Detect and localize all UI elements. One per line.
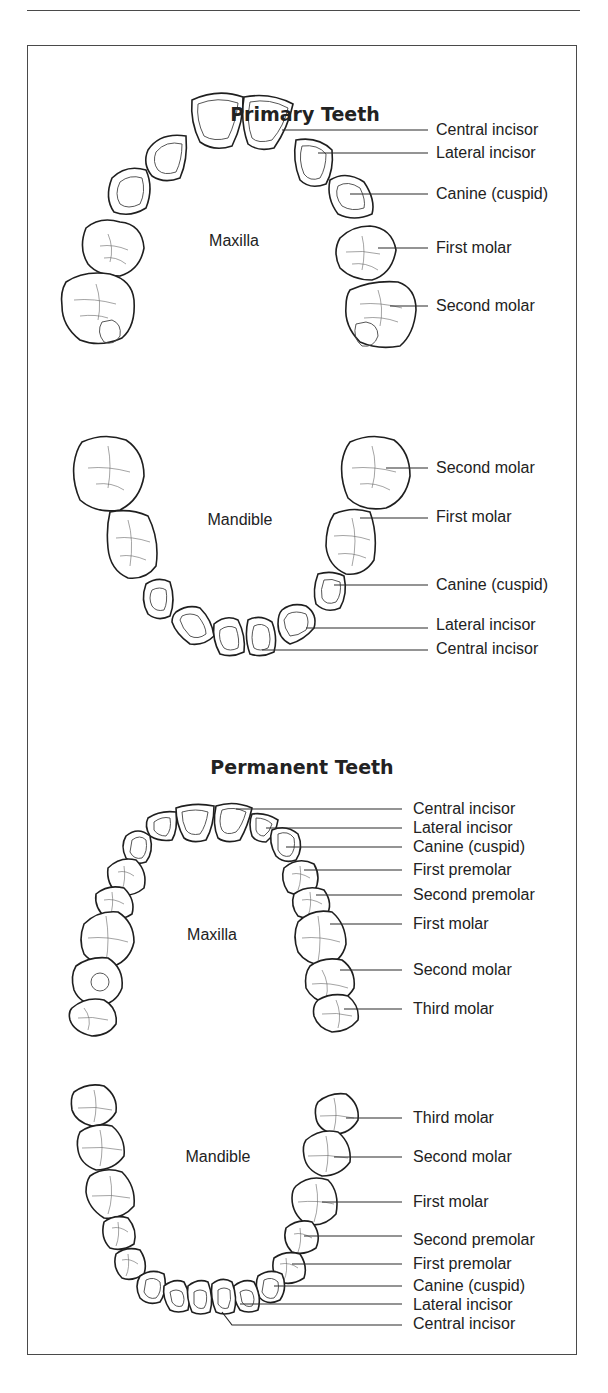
tooth-icon — [146, 812, 176, 841]
tooth-icon — [295, 911, 346, 966]
tooth-icon — [74, 436, 144, 510]
permanent-maxilla-canine-label: Canine (cuspid) — [413, 839, 525, 855]
primary-teeth-title: Primary Teeth — [230, 103, 380, 125]
permanent-mandible-central-incisor-label: Central incisor — [413, 1316, 515, 1332]
tooth-icon — [346, 282, 416, 348]
tooth-icon — [188, 1281, 212, 1314]
permanent-maxilla-first-premolar-label: First premolar — [413, 862, 512, 878]
tooth-icon — [164, 1281, 190, 1312]
primary-maxilla-central-incisor-label: Central incisor — [436, 122, 538, 138]
primary-maxilla-second-molar-label: Second molar — [436, 298, 535, 314]
tooth-icon — [326, 509, 375, 574]
dental-chart-illustration — [0, 0, 608, 1393]
tooth-icon — [256, 1271, 284, 1302]
permanent-mandible-lateral-incisor-label: Lateral incisor — [413, 1297, 513, 1313]
permanent-mandible-second-premolar-label: Second premolar — [413, 1232, 535, 1248]
permanent-mandible-label: Mandible — [186, 1148, 251, 1166]
tooth-icon — [143, 579, 173, 618]
tooth-icon — [329, 175, 373, 218]
permanent-maxilla-third-molar-label: Third molar — [413, 1001, 494, 1017]
tooth-icon — [107, 511, 157, 579]
primary-maxilla-canine-label: Canine (cuspid) — [436, 186, 548, 202]
permanent-teeth-title: Permanent Teeth — [210, 756, 393, 778]
permanent-mandible-first-molar-label: First molar — [413, 1194, 489, 1210]
permanent-mandible-second-molar-label: Second molar — [413, 1149, 512, 1165]
tooth-icon — [285, 1221, 318, 1253]
primary-maxilla-first-molar-label: First molar — [436, 240, 512, 256]
tooth-icon — [103, 1217, 135, 1250]
primary-mandible-arch — [74, 436, 410, 655]
tooth-icon — [336, 226, 396, 280]
permanent-mandible-arch — [71, 1085, 358, 1314]
tooth-icon — [342, 436, 410, 508]
tooth-icon — [82, 220, 144, 276]
permanent-maxilla-arch — [69, 803, 358, 1036]
permanent-mandible-first-premolar-label: First premolar — [413, 1256, 512, 1272]
tooth-icon — [212, 1279, 236, 1314]
permanent-maxilla-second-premolar-label: Second premolar — [413, 887, 535, 903]
permanent-mandible-third-molar-label: Third molar — [413, 1110, 494, 1126]
permanent-maxilla-label: Maxilla — [187, 926, 237, 944]
primary-mandible-central-incisor-label: Central incisor — [436, 641, 538, 657]
tooth-icon — [62, 273, 135, 344]
tooth-icon — [315, 1094, 358, 1134]
primary-mandible-first-molar-label: First molar — [436, 509, 512, 525]
permanent-maxilla-second-molar-label: Second molar — [413, 962, 512, 978]
permanent-maxilla-lateral-incisor-label: Lateral incisor — [413, 820, 513, 836]
primary-mandible-second-molar-label: Second molar — [436, 460, 535, 476]
permanent-maxilla-first-molar-label: First molar — [413, 916, 489, 932]
tooth-icon — [278, 605, 315, 644]
permanent-mandible-canine-label: Canine (cuspid) — [413, 1278, 525, 1294]
primary-mandible-label: Mandible — [208, 511, 273, 529]
permanent-maxilla-central-incisor-label: Central incisor — [413, 801, 515, 817]
tooth-icon — [71, 1085, 116, 1126]
primary-mandible-canine-label: Canine (cuspid) — [436, 577, 548, 593]
tooth-icon — [172, 607, 214, 645]
primary-mandible-lateral-incisor-label: Lateral incisor — [436, 617, 536, 633]
primary-maxilla-arch — [62, 93, 417, 347]
tooth-icon — [234, 1281, 260, 1312]
primary-maxilla-lateral-incisor-label: Lateral incisor — [436, 145, 536, 161]
primary-maxilla-label: Maxilla — [209, 232, 259, 250]
